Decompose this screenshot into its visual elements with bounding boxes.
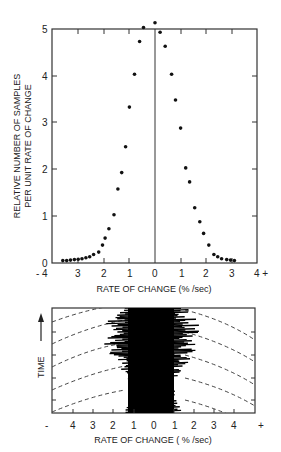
- x-tick-3: 3: [229, 268, 235, 279]
- data-point: [97, 250, 101, 254]
- lower-x-tick-2: 2: [191, 420, 197, 431]
- data-point: [116, 187, 120, 191]
- lower-x-tick-1: 1: [172, 420, 178, 431]
- data-point: [88, 255, 92, 259]
- x-tick-4plus: 4 +: [254, 268, 268, 279]
- x-tick-1: 1: [179, 268, 185, 279]
- data-point: [76, 257, 80, 261]
- data-point: [142, 26, 146, 30]
- lower-x-tick-0: 0: [151, 420, 157, 431]
- data-point: [216, 255, 220, 259]
- upper-chart: 0 1 2 3 4 5 - 4 3 2 1 0 1 2 3 4 + RATE O…: [12, 21, 268, 294]
- lower-x-tick-plus: +: [258, 420, 264, 431]
- data-point: [179, 126, 183, 130]
- lower-x-tick-neg3: 3: [90, 420, 96, 431]
- y-tick-3: 3: [42, 117, 48, 128]
- data-point: [225, 258, 229, 262]
- data-point: [107, 227, 111, 231]
- lower-x-tick-3: 3: [211, 420, 217, 431]
- data-point: [170, 73, 174, 77]
- x-tick-neg1: 1: [127, 268, 133, 279]
- y-tick-1: 1: [42, 211, 48, 222]
- upper-y-axis-label-line2: PER UNIT RATE OF CHANGE: [23, 84, 33, 208]
- data-point: [80, 257, 84, 261]
- data-point: [163, 44, 167, 48]
- data-point: [103, 236, 107, 240]
- data-point: [101, 243, 105, 247]
- x-tick-neg4: - 4: [36, 268, 48, 279]
- data-point: [128, 105, 132, 109]
- data-point: [138, 40, 142, 44]
- data-point: [193, 206, 197, 210]
- data-point: [158, 30, 162, 34]
- data-point: [92, 253, 96, 257]
- lower-x-tick-4: 4: [231, 420, 237, 431]
- y-tick-2: 2: [42, 164, 48, 175]
- data-point: [198, 220, 202, 224]
- y-tick-5: 5: [42, 24, 48, 35]
- data-point: [229, 258, 233, 262]
- data-point: [112, 213, 116, 217]
- upper-x-axis-label: RATE OF CHANGE (% /sec): [97, 284, 212, 294]
- x-tick-0: 0: [152, 268, 158, 279]
- time-axis-label: TIME: [36, 357, 46, 379]
- time-arrow-icon: [38, 313, 44, 341]
- data-point: [133, 73, 137, 77]
- data-point: [207, 243, 211, 247]
- data-point: [202, 232, 206, 236]
- y-tick-4: 4: [42, 71, 48, 82]
- x-tick-neg3: 3: [75, 268, 81, 279]
- x-tick-2: 2: [203, 268, 209, 279]
- data-point: [61, 259, 65, 263]
- data-point: [120, 171, 124, 175]
- data-point: [69, 258, 73, 262]
- data-point: [153, 21, 157, 25]
- data-point: [184, 166, 188, 170]
- data-point: [174, 98, 178, 102]
- data-point: [220, 257, 224, 261]
- data-point: [188, 180, 192, 184]
- data-points: [61, 21, 236, 262]
- data-point: [124, 145, 128, 149]
- figure: 0 1 2 3 4 5 - 4 3 2 1 0 1 2 3 4 + RATE O…: [0, 0, 281, 452]
- lower-x-axis-label: RATE OF CHANGE ( % /sec): [94, 435, 211, 445]
- data-point: [73, 258, 77, 262]
- data-point: [212, 253, 216, 257]
- upper-y-axis-label-line1: RELATIVE NUMBER OF SAMPLES: [12, 74, 22, 218]
- lower-x-tick-neg1: 1: [131, 420, 137, 431]
- x-tick-neg2: 2: [101, 268, 107, 279]
- lower-x-tick-neg4: 4: [70, 420, 76, 431]
- data-point: [84, 256, 88, 260]
- data-point: [233, 259, 237, 263]
- lower-chart: - 4 3 2 1 0 1 2 3 4 + RATE OF CHANGE ( %…: [36, 305, 264, 445]
- lower-x-tick-minus: -: [45, 420, 48, 431]
- lower-x-tick-neg2: 2: [110, 420, 116, 431]
- data-point: [65, 259, 69, 263]
